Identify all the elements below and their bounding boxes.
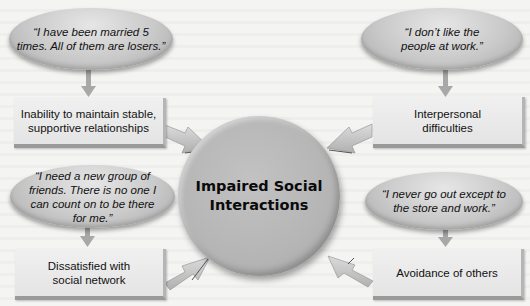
quote-line: “I have been married 5 — [33, 26, 149, 38]
box-line: Interpersonal — [414, 108, 481, 120]
center-impaired-social-interactions: Impaired Social Interactions — [178, 116, 340, 276]
box-line: difficulties — [422, 122, 472, 134]
quote-line: people at work.” — [401, 40, 483, 52]
down-arrow-icon — [438, 70, 453, 97]
quote-bubble-new-friends: “I need a new group of friends. There is… — [10, 165, 175, 228]
box-text: Inability to maintain stable, supportive… — [21, 107, 157, 135]
quote-line: “I don’t like the — [405, 26, 480, 38]
quote-text: “I have been married 5 times. All of the… — [17, 25, 165, 53]
quote-line: can count on to be there — [30, 198, 154, 210]
box-line: social network — [53, 274, 126, 286]
quote-bubble-never-go-out: “I never go out except to the store and … — [365, 172, 523, 230]
quote-line: friends. There is no one I — [29, 184, 156, 196]
quote-bubble-married: “I have been married 5 times. All of the… — [9, 8, 173, 70]
box-line: supportive relationships — [28, 122, 149, 134]
down-arrow-icon — [80, 226, 95, 247]
arrow-to-center-icon — [328, 256, 373, 287]
box-line: Avoidance of others — [396, 267, 497, 279]
down-arrow-icon — [438, 230, 453, 247]
center-label-line: Interactions — [210, 197, 309, 213]
quote-text: “I need a new group of friends. There is… — [29, 169, 156, 225]
box-text: Avoidance of others — [396, 266, 497, 280]
center-label-line: Impaired Social — [196, 178, 323, 194]
arrow-to-center-icon — [165, 257, 210, 290]
down-arrow-icon — [81, 70, 96, 97]
box-line: Dissatisfied with — [48, 260, 130, 272]
box-text: Interpersonal difficulties — [414, 107, 481, 135]
box-avoidance-of-others: Avoidance of others — [373, 249, 524, 300]
box-inability-relationships: Inability to maintain stable, supportive… — [14, 98, 166, 148]
box-line: Inability to maintain stable, — [21, 108, 157, 120]
quote-bubble-people-at-work: “I don’t like the people at work.” — [361, 8, 523, 70]
quote-line: “I never go out except to — [382, 188, 506, 200]
box-text: Dissatisfied with social network — [48, 259, 130, 287]
center-label: Impaired Social Interactions — [196, 177, 323, 215]
quote-text: “I don’t like the people at work.” — [401, 25, 483, 53]
box-dissatisfied-social-network: Dissatisfied with social network — [15, 249, 166, 300]
quote-line: “I need a new group of — [35, 170, 150, 182]
box-interpersonal-difficulties: Interpersonal difficulties — [373, 97, 525, 148]
arrow-to-center-icon — [327, 124, 372, 153]
quote-line: for me.” — [73, 212, 113, 224]
quote-line: times. All of them are losers.” — [17, 40, 165, 52]
quote-line: the store and work.” — [393, 202, 495, 214]
quote-text: “I never go out except to the store and … — [382, 187, 506, 215]
